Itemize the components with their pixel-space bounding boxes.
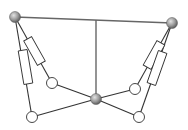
right-inner-platform-link <box>96 89 135 99</box>
left-outer-platform-link <box>32 99 96 117</box>
right-outer-platform-link <box>96 99 139 117</box>
top-bar <box>15 17 172 23</box>
mechanism-diagram <box>0 0 188 130</box>
right-inner-joint <box>130 84 141 95</box>
base-left-ball <box>10 12 21 23</box>
base-right-ball <box>167 18 178 29</box>
right-outer-joint <box>134 112 145 123</box>
platform-center-ball <box>91 94 102 105</box>
left-outer-joint <box>27 112 38 123</box>
left-inner-joint <box>47 78 58 89</box>
left-inner-platform-link <box>52 83 96 99</box>
left-outer-actuator <box>18 49 33 84</box>
